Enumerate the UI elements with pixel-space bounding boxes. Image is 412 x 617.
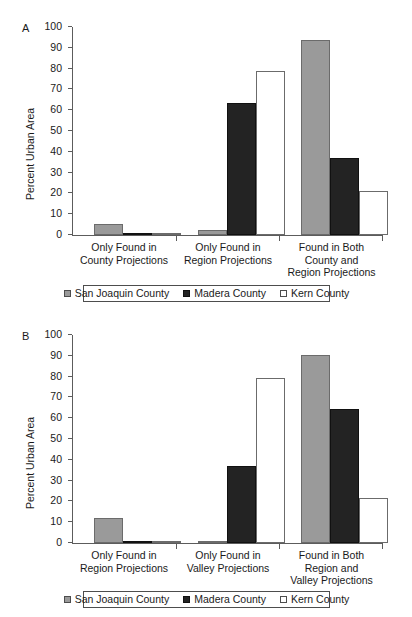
y-tick-b-30: 30 xyxy=(68,480,72,481)
y-tick-b-70: 70 xyxy=(68,396,72,397)
legend-label-b-kern-county: Kern County xyxy=(291,594,349,605)
legend-swatch-madera-county-icon xyxy=(183,596,190,603)
y-tick-label-a-90: 90 xyxy=(50,42,62,53)
legend-swatch-kern-county-icon xyxy=(280,290,287,297)
x-axis-category-labels-a: Only Found inCounty Projections Only Fou… xyxy=(72,241,383,285)
bar-b-g2-san-joaquin-county xyxy=(198,541,227,543)
y-tick-b-50: 50 xyxy=(68,438,72,439)
panel-letter-b: B xyxy=(22,330,30,342)
chart-panel-a: A Percent Urban Area 0 10 20 30 40 50 60… xyxy=(0,0,412,308)
bar-a-g2-kern-county xyxy=(256,71,285,235)
y-tick-label-b-10: 10 xyxy=(50,516,62,527)
legend-item-a-madera-county: Madera County xyxy=(183,288,266,299)
y-tick-a-90: 90 xyxy=(68,47,72,48)
legend-item-b-madera-county: Madera County xyxy=(183,594,266,605)
bar-b-g2-kern-county xyxy=(256,378,285,543)
y-tick-label-a-40: 40 xyxy=(50,146,62,157)
y-tick-label-b-60: 60 xyxy=(50,412,62,423)
x-axis-line-a xyxy=(72,235,383,236)
y-axis-label-b: Percent Urban Area xyxy=(24,408,36,518)
y-tick-label-b-40: 40 xyxy=(50,454,62,465)
chart-panel-b: B Percent Urban Area 0 10 20 30 40 50 60… xyxy=(0,308,412,617)
y-axis-line-a xyxy=(72,27,73,236)
y-tick-label-a-100: 100 xyxy=(44,21,62,32)
bar-a-g3-san-joaquin-county xyxy=(301,40,330,236)
bar-b-g1-kern-county xyxy=(152,541,181,543)
legend-a: San Joaquin County Madera County Kern Co… xyxy=(83,285,330,302)
bar-b-g2-madera-county xyxy=(227,466,256,543)
y-tick-label-b-0: 0 xyxy=(56,537,62,548)
bar-a-g1-san-joaquin-county xyxy=(94,224,123,235)
bar-b-g3-madera-county xyxy=(330,409,359,543)
legend-swatch-san-joaquin-county-icon xyxy=(64,596,71,603)
y-tick-label-b-30: 30 xyxy=(50,474,62,485)
y-tick-label-a-10: 10 xyxy=(50,208,62,219)
y-tick-b-0: 0 xyxy=(68,542,72,543)
y-tick-a-10: 10 xyxy=(68,213,72,214)
legend-b: San Joaquin County Madera County Kern Co… xyxy=(83,591,330,608)
legend-label-b-madera-county: Madera County xyxy=(194,594,266,605)
y-tick-b-10: 10 xyxy=(68,521,72,522)
bar-b-g3-kern-county xyxy=(359,498,388,543)
legend-swatch-kern-county-icon xyxy=(280,596,287,603)
y-tick-label-a-20: 20 xyxy=(50,187,62,198)
y-tick-label-b-100: 100 xyxy=(44,329,62,340)
y-tick-a-70: 70 xyxy=(68,88,72,89)
y-tick-a-60: 60 xyxy=(68,109,72,110)
y-tick-b-20: 20 xyxy=(68,500,72,501)
y-tick-label-b-50: 50 xyxy=(50,433,62,444)
y-tick-a-40: 40 xyxy=(68,151,72,152)
x-category-label-a-1: Only Found inCounty Projections xyxy=(72,241,176,266)
y-tick-a-50: 50 xyxy=(68,130,72,131)
x-category-label-b-1: Only Found inRegion Projections xyxy=(72,549,176,574)
y-tick-b-60: 60 xyxy=(68,417,72,418)
y-tick-a-80: 80 xyxy=(68,68,72,69)
y-axis-label-a: Percent Urban Area xyxy=(24,99,36,209)
y-tick-b-40: 40 xyxy=(68,459,72,460)
y-tick-label-a-60: 60 xyxy=(50,104,62,115)
bar-a-g2-madera-county xyxy=(227,103,256,235)
bar-b-g1-san-joaquin-county xyxy=(94,518,123,543)
y-tick-a-30: 30 xyxy=(68,172,72,173)
bar-a-g1-madera-county xyxy=(123,233,152,235)
x-category-label-b-3: Found in BothRegion andValley Projection… xyxy=(280,549,383,587)
legend-item-b-kern-county: Kern County xyxy=(280,594,349,605)
legend-label-a-kern-county: Kern County xyxy=(291,288,349,299)
y-tick-b-100: 100 xyxy=(68,334,72,335)
plot-area-b: 0 10 20 30 40 50 60 70 80 90 100 xyxy=(72,335,383,544)
y-tick-label-a-80: 80 xyxy=(50,62,62,73)
plot-area-a: 0 10 20 30 40 50 60 70 80 90 100 xyxy=(72,27,383,236)
bar-a-g2-san-joaquin-county xyxy=(198,230,227,235)
legend-item-b-san-joaquin-county: San Joaquin County xyxy=(64,594,170,605)
y-tick-a-20: 20 xyxy=(68,192,72,193)
x-axis-line-b xyxy=(72,543,383,544)
legend-item-a-san-joaquin-county: San Joaquin County xyxy=(64,288,170,299)
bar-a-g3-madera-county xyxy=(330,158,359,235)
legend-label-a-san-joaquin-county: San Joaquin County xyxy=(75,288,170,299)
y-tick-a-100: 100 xyxy=(68,26,72,27)
x-category-label-a-2: Only Found inRegion Projections xyxy=(176,241,280,266)
y-tick-label-b-70: 70 xyxy=(50,391,62,402)
legend-label-a-madera-county: Madera County xyxy=(194,288,266,299)
y-axis-line-b xyxy=(72,335,73,544)
y-tick-label-b-20: 20 xyxy=(50,495,62,506)
panel-letter-a: A xyxy=(22,22,30,34)
y-tick-b-90: 90 xyxy=(68,355,72,356)
legend-swatch-madera-county-icon xyxy=(183,290,190,297)
y-tick-b-80: 80 xyxy=(68,376,72,377)
bar-b-g1-madera-county xyxy=(123,541,152,543)
y-tick-label-a-70: 70 xyxy=(50,83,62,94)
y-tick-label-b-90: 90 xyxy=(50,350,62,361)
y-tick-a-0: 0 xyxy=(68,234,72,235)
y-tick-label-b-80: 80 xyxy=(50,370,62,381)
y-tick-label-a-50: 50 xyxy=(50,125,62,136)
legend-label-b-san-joaquin-county: San Joaquin County xyxy=(75,594,170,605)
bar-b-g3-san-joaquin-county xyxy=(301,355,330,543)
legend-swatch-san-joaquin-county-icon xyxy=(64,290,71,297)
legend-item-a-kern-county: Kern County xyxy=(280,288,349,299)
y-tick-label-a-0: 0 xyxy=(56,229,62,240)
x-axis-category-labels-b: Only Found inRegion Projections Only Fou… xyxy=(72,549,383,593)
bar-a-g1-kern-county xyxy=(152,233,181,235)
x-category-label-b-2: Only Found inValley Projections xyxy=(176,549,280,574)
y-tick-label-a-30: 30 xyxy=(50,166,62,177)
